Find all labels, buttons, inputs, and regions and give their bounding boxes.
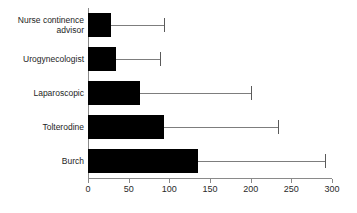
x-tick-label: 0 <box>85 184 90 194</box>
chart-row: Nurse continence advisor <box>0 8 357 42</box>
category-label: Urogynecologist <box>4 54 84 64</box>
chart-row: Tolterodine <box>0 110 357 144</box>
bar <box>88 13 111 37</box>
category-label: Nurse continence advisor <box>4 15 84 35</box>
error-bar-cap <box>160 52 161 66</box>
error-bar-cap <box>278 120 279 134</box>
chart-row: Urogynecologist <box>0 42 357 76</box>
x-tick <box>251 179 252 183</box>
bar <box>88 149 198 173</box>
x-tick-label: 50 <box>124 184 134 194</box>
bar <box>88 47 116 71</box>
x-tick <box>129 179 130 183</box>
x-tick <box>210 179 211 183</box>
bar <box>88 81 140 105</box>
error-bar-line <box>164 127 278 128</box>
x-tick-label: 200 <box>243 184 258 194</box>
error-bar-line <box>198 161 326 162</box>
error-bar-line <box>116 59 160 60</box>
category-label: Laparoscopic <box>4 88 84 98</box>
error-bar-line <box>111 25 164 26</box>
category-label: Tolterodine <box>4 122 84 132</box>
chart-row: Laparoscopic <box>0 76 357 110</box>
error-bar-cap <box>164 18 165 32</box>
bar-chart: Nurse continence advisorUrogynecologistL… <box>0 0 357 213</box>
error-bar-cap <box>325 154 326 168</box>
x-tick-label: 100 <box>162 184 177 194</box>
bar <box>88 115 164 139</box>
category-label: Burch <box>4 156 84 166</box>
x-tick-label: 150 <box>202 184 217 194</box>
x-tick <box>291 179 292 183</box>
x-tick <box>88 179 89 183</box>
chart-row: Burch <box>0 144 357 178</box>
x-tick <box>332 179 333 183</box>
x-tick-label: 300 <box>324 184 339 194</box>
x-tick-label: 250 <box>284 184 299 194</box>
error-bar-line <box>140 93 251 94</box>
error-bar-cap <box>251 86 252 100</box>
x-tick <box>169 179 170 183</box>
